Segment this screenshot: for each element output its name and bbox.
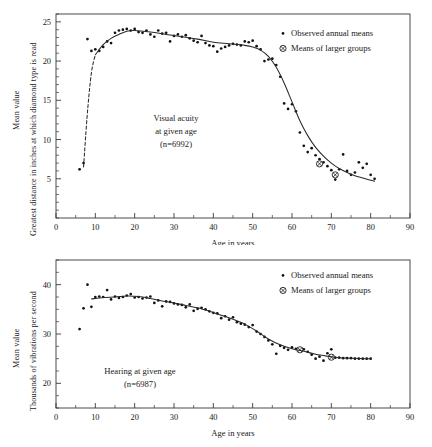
data-point-observed-mean	[318, 355, 321, 358]
data-point-observed-mean	[334, 178, 337, 181]
data-point-observed-mean	[188, 303, 191, 306]
legend-crossed-circle-icon	[280, 45, 286, 51]
data-point-observed-mean	[86, 283, 89, 286]
data-point-observed-mean	[287, 348, 290, 351]
data-point-observed-mean	[149, 295, 152, 298]
x-axis-tick-label: 10	[91, 223, 99, 232]
data-point-observed-mean	[78, 328, 81, 331]
data-point-observed-mean	[106, 289, 109, 292]
fitted-curve-dashed-segment	[84, 55, 96, 167]
chart-annotation-line: (n=6992)	[160, 139, 192, 149]
data-point-observed-mean	[302, 144, 305, 147]
fitted-curve	[95, 30, 374, 181]
x-axis-tick-label: 50	[248, 223, 256, 232]
data-point-observed-mean	[365, 163, 368, 166]
data-point-observed-mean	[224, 46, 227, 49]
data-point-observed-mean	[153, 35, 156, 38]
data-point-observed-mean	[243, 40, 246, 43]
data-point-observed-mean	[133, 28, 136, 31]
x-axis-tick-label: 30	[170, 223, 178, 232]
y-axis-tick-label: 25	[43, 18, 51, 27]
scatter-plot-visual-acuity: 0102030405060708090510152025Observed ann…	[0, 0, 432, 245]
data-point-observed-mean	[263, 60, 266, 63]
data-point-observed-mean	[326, 352, 329, 355]
data-point-observed-mean	[122, 28, 125, 31]
data-point-observed-mean	[373, 177, 376, 180]
scatter-plot-hearing: 0102030405060708090203040Observed annual…	[0, 246, 432, 447]
figure-container: Mean value Greatest distance in inches a…	[0, 0, 432, 447]
data-point-observed-mean	[314, 154, 317, 157]
x-axis-tick-label: 90	[406, 223, 414, 232]
y-axis-tick-label: 15	[43, 96, 51, 105]
data-point-observed-mean	[118, 29, 121, 32]
data-point-observed-mean	[275, 352, 278, 355]
x-axis-tick-label: 60	[288, 413, 296, 422]
data-point-observed-mean	[322, 359, 325, 362]
data-point-observed-mean	[177, 33, 180, 36]
x-axis-tick-label: 70	[327, 413, 335, 422]
data-point-observed-mean	[220, 47, 223, 50]
legend-label: Observed annual means	[291, 270, 374, 280]
x-axis-tick-label: 0	[54, 223, 58, 232]
legend-small-dot-icon	[282, 274, 285, 277]
y-axis-tick-label: 30	[43, 330, 51, 339]
chart-panel-hearing: Mean value Thousands of vibrations per s…	[0, 246, 432, 447]
data-point-observed-mean	[90, 50, 93, 53]
data-point-observed-mean	[330, 348, 333, 351]
data-point-observed-mean	[283, 102, 286, 105]
data-point-larger-group-mean	[316, 161, 322, 167]
data-point-observed-mean	[255, 45, 258, 48]
data-point-observed-mean	[326, 165, 329, 168]
data-point-observed-mean	[192, 309, 195, 312]
data-point-observed-mean	[78, 168, 81, 171]
x-axis-tick-label: 0	[54, 413, 58, 422]
data-point-observed-mean	[369, 174, 372, 177]
x-axis-title: Age in years	[211, 428, 255, 438]
chart-panel-visual-acuity: Mean value Greatest distance in inches a…	[0, 0, 432, 245]
data-point-observed-mean	[86, 38, 89, 41]
legend-label: Means of larger groups	[291, 43, 371, 53]
data-point-observed-mean	[212, 45, 215, 48]
x-axis-tick-label: 60	[288, 223, 296, 232]
x-axis-tick-label: 40	[209, 223, 217, 232]
data-point-observed-mean	[330, 169, 333, 172]
data-point-observed-mean	[271, 343, 274, 346]
data-point-observed-mean	[125, 28, 128, 31]
data-point-observed-mean	[129, 293, 132, 296]
data-point-observed-mean	[318, 158, 321, 161]
data-point-observed-mean	[306, 151, 309, 154]
chart-annotation-line: Visual acuity	[153, 113, 199, 123]
data-point-observed-mean	[149, 33, 152, 36]
x-axis-title: Age in years	[211, 238, 255, 245]
data-point-observed-mean	[114, 31, 117, 34]
legend-small-dot-icon	[282, 32, 285, 35]
data-point-observed-mean	[310, 147, 313, 150]
y-axis-tick-label: 20	[43, 57, 51, 66]
x-axis-tick-label: 40	[209, 413, 217, 422]
data-point-observed-mean	[232, 316, 235, 319]
data-point-observed-mean	[141, 31, 144, 34]
data-point-observed-mean	[247, 41, 250, 44]
data-point-observed-mean	[153, 302, 156, 305]
data-point-observed-mean	[157, 29, 160, 32]
chart-annotation-line: Hearing at given age	[104, 366, 176, 376]
data-point-observed-mean	[342, 153, 345, 156]
data-point-observed-mean	[204, 42, 207, 45]
data-point-observed-mean	[228, 318, 231, 321]
legend-label: Observed annual means	[291, 28, 374, 38]
data-point-observed-mean	[161, 305, 164, 308]
y-axis-tick-label: 20	[43, 379, 51, 388]
legend-entry: Observed annual means	[282, 270, 374, 280]
data-point-observed-mean	[267, 58, 270, 61]
x-axis-tick-label: 90	[406, 413, 414, 422]
x-axis-tick-label: 50	[248, 413, 256, 422]
y-axis-tick-label: 40	[43, 281, 51, 290]
legend-entry: Observed annual means	[282, 28, 374, 38]
x-axis-tick-label: 80	[366, 413, 374, 422]
data-point-larger-group-mean	[332, 172, 338, 178]
data-point-observed-mean	[216, 50, 219, 53]
data-point-observed-mean	[354, 171, 357, 174]
data-point-observed-mean	[251, 324, 254, 327]
data-point-observed-mean	[192, 39, 195, 42]
x-axis-tick-label: 20	[130, 223, 138, 232]
